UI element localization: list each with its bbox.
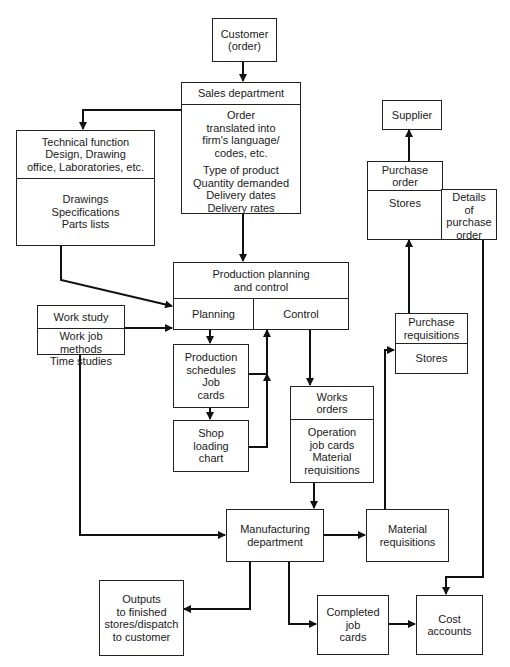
shop-loading-line: loading: [193, 440, 228, 453]
details-line: of: [464, 204, 473, 217]
node-manufacturing-department: Manufacturing department: [226, 509, 324, 562]
details-line: purchase: [446, 216, 491, 229]
outputs-line: stores/dispatch: [105, 618, 179, 631]
customer-label-1: Customer: [221, 28, 269, 41]
completed-line: cards: [340, 631, 367, 644]
works-orders-body-line: job cards: [310, 439, 355, 452]
node-customer: Customer (order): [212, 18, 277, 62]
purchase-req-title-line: Purchase: [408, 316, 454, 329]
ppc-title-line: and control: [234, 281, 288, 294]
outputs-line: Outputs: [122, 593, 161, 606]
details-line: order: [456, 229, 482, 242]
technical-title-line: Technical function: [42, 136, 129, 149]
node-production-schedules: Production schedules Job cards: [173, 344, 249, 408]
node-technical-function: Technical function Design, Drawing offic…: [16, 130, 155, 246]
node-works-orders: Works orders Operation job cards Materia…: [290, 386, 374, 483]
work-study-body-line: methods: [60, 343, 102, 356]
works-orders-body-line: Material: [312, 451, 351, 464]
material-req-line: Material: [388, 523, 427, 536]
sales-body-line: Delivery rates: [207, 202, 274, 215]
schedules-line: cards: [198, 389, 225, 402]
arrow-shoploading-to-control: [249, 374, 267, 447]
details-line: Details: [452, 191, 486, 204]
arrow-manufacturing-to-outputs: [184, 561, 250, 609]
sales-title: Sales department: [198, 87, 284, 100]
completed-line: job: [346, 619, 361, 632]
material-req-line: requisitions: [380, 536, 436, 549]
stores-label: Stores: [389, 197, 421, 210]
ppc-planning: Planning: [174, 299, 253, 329]
arrow-sales-to-technical: [83, 110, 181, 129]
technical-title-line: Design, Drawing: [45, 148, 126, 161]
control-label: Control: [283, 308, 318, 321]
sales-body-line: Delivery dates: [206, 189, 276, 202]
manufacturing-line: Manufacturing: [240, 523, 310, 536]
sales-body-line: Quantity demanded: [193, 177, 289, 190]
technical-body-line: Drawings: [63, 193, 109, 206]
technical-body-line: Parts lists: [62, 218, 110, 231]
node-purchase-order: Purchase order Stores: [367, 161, 443, 240]
node-work-study: Work study Work job methods Time studies: [37, 305, 125, 355]
node-purchase-requisitions: Purchase requisitions Stores: [395, 313, 468, 374]
node-cost-accounts: Cost accounts: [416, 595, 483, 655]
node-sales-department: Sales department Order translated into f…: [181, 82, 301, 214]
node-shop-loading-chart: Shop loading chart: [173, 420, 249, 472]
shop-loading-line: Shop: [198, 427, 224, 440]
node-outputs: Outputs to finished stores/dispatch to c…: [99, 580, 184, 656]
cost-accounts-line: accounts: [427, 625, 471, 638]
arrow-technical-to-planning: [61, 246, 172, 306]
node-material-requisitions: Material requisitions: [366, 509, 449, 562]
outputs-line: to finished: [116, 606, 166, 619]
outputs-line: to customer: [113, 631, 170, 644]
customer-label-2: (order): [228, 40, 261, 53]
purchase-req-stores: Stores: [416, 352, 448, 365]
ppc-title-line: Production planning: [212, 268, 309, 281]
ppc-control: Control: [253, 299, 348, 329]
arrow-details-to-costaccounts: [446, 239, 483, 594]
work-study-body-line: Time studies: [50, 355, 112, 368]
purchase-order-title-line: Purchase: [382, 164, 428, 177]
sales-body-line: Order: [227, 109, 255, 122]
schedules-line: Job: [202, 376, 220, 389]
works-orders-title-line: Works: [317, 391, 348, 404]
works-orders-title-line: orders: [316, 403, 347, 416]
technical-title-line: office, Laboratories, etc.: [27, 161, 144, 174]
supplier-label: Supplier: [392, 109, 432, 122]
planning-label: Planning: [192, 308, 235, 321]
sales-body-line: translated into: [206, 122, 275, 135]
sales-body-line: codes, etc.: [214, 147, 267, 160]
works-orders-body-line: requisitions: [304, 464, 360, 477]
arrow-materialreq-to-purchasereq: [385, 350, 394, 509]
schedules-line: Production: [185, 351, 238, 364]
sales-body-line: Type of product: [203, 164, 279, 177]
purchase-order-title-line: order: [392, 176, 418, 189]
works-orders-body-line: Operation: [308, 426, 356, 439]
sales-body-line: firm's language/: [202, 134, 279, 147]
work-study-title: Work study: [54, 311, 109, 324]
completed-line: Completed: [326, 606, 379, 619]
node-supplier: Supplier: [382, 100, 442, 130]
node-completed-job-cards: Completed job cards: [317, 595, 389, 655]
manufacturing-line: department: [247, 536, 303, 549]
node-production-planning-control: Production planning and control Planning…: [173, 262, 349, 330]
cost-accounts-line: Cost: [438, 613, 461, 626]
technical-body-line: Specifications: [52, 206, 120, 219]
shop-loading-line: chart: [199, 452, 223, 465]
purchase-req-title-line: requisitions: [404, 329, 460, 342]
work-study-body-line: Work job: [59, 330, 102, 343]
arrow-manufacturing-to-completedjobcards: [289, 561, 316, 624]
node-details-of-purchase-order: Details of purchase order: [441, 189, 497, 240]
schedules-line: schedules: [186, 364, 236, 377]
